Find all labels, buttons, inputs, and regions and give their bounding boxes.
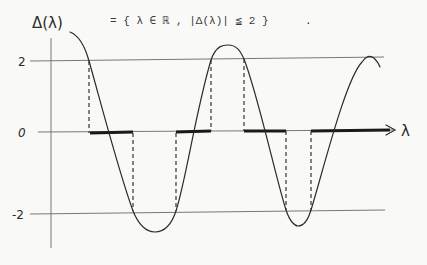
band-4 <box>311 130 390 131</box>
tick-label-2: 2 <box>18 55 26 69</box>
set-definition: = { λ ∈ ℝ , |Δ(λ)| ≦ 2 } <box>110 15 269 27</box>
tick-label-minus2: -2 <box>12 208 24 222</box>
x-axis-label: λ <box>401 122 410 140</box>
level-minus2-line <box>30 210 385 214</box>
level-2-line <box>30 57 384 61</box>
title-period: . <box>305 15 312 27</box>
discriminant-diagram: Δ(λ) = { λ ∈ ℝ , |Δ(λ)| ≦ 2 } . λ 2 0 -2 <box>0 0 427 265</box>
y-axis-label: Δ(λ) <box>32 14 63 32</box>
band-1 <box>90 132 133 133</box>
tick-label-0: 0 <box>18 126 26 140</box>
